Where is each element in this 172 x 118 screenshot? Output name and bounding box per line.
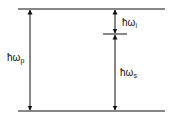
diagram-graphics [0,0,172,118]
idler-label: ħωi [122,18,137,31]
signal-label: ħωs [120,68,137,81]
pump-label: ħωp [7,53,24,66]
energy-level-diagram: ħωp ħωi ħωs [0,0,172,118]
